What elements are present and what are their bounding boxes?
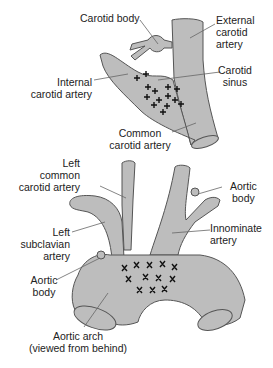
label-left-subclavian-artery: Left subclavian artery xyxy=(12,226,70,262)
label-common-carotid-artery: Common carotid artery xyxy=(108,127,172,151)
left-common-carotid-shape xyxy=(122,161,135,250)
aortic-body-left-shape xyxy=(97,251,105,259)
label-internal-carotid-artery: Internal carotid artery xyxy=(28,76,92,100)
label-carotid-sinus: Carotid sinus xyxy=(218,64,252,88)
carotid-body-shape xyxy=(130,36,172,61)
baroreceptor-diagram: Carotid body External carotid artery Int… xyxy=(0,0,273,368)
label-carotid-body: Carotid body xyxy=(80,12,140,24)
label-left-common-carotid-artery: Left common carotid artery xyxy=(14,157,80,193)
label-external-carotid-artery: External carotid artery xyxy=(216,14,255,50)
left-subclavian-shape xyxy=(70,195,124,258)
label-innominate-artery: Innominate artery xyxy=(210,222,262,246)
label-aortic-body-left: Aortic body xyxy=(24,274,64,298)
label-aortic-body-right: Aortic body xyxy=(230,180,257,204)
label-aortic-arch: Aortic arch (viewed from behind) xyxy=(28,330,128,354)
aortic-body-right-shape xyxy=(191,188,199,196)
